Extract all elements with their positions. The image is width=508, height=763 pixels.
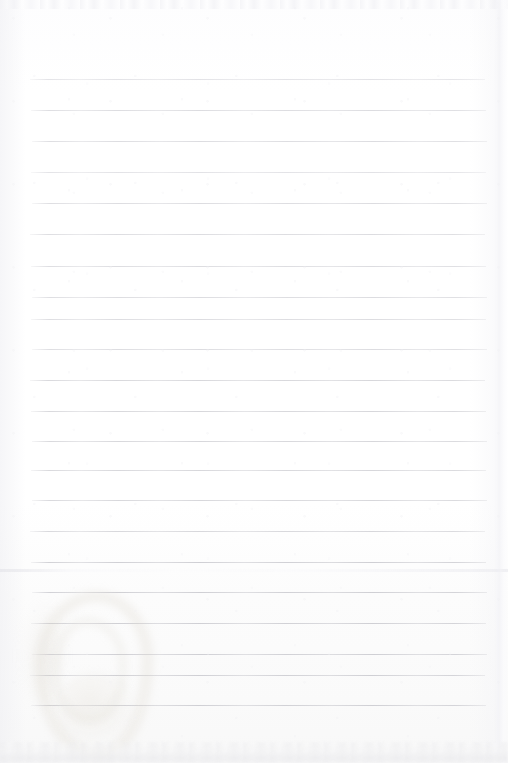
ruled-line: [31, 266, 486, 267]
ruled-line: [32, 297, 487, 298]
ruled-line: [31, 470, 486, 471]
ruled-line: [32, 349, 487, 350]
horizontal-fold-crease: [0, 569, 508, 572]
ruled-line: [30, 79, 485, 80]
ruled-line: [32, 500, 487, 501]
ruled-line: [31, 411, 486, 412]
ruled-line: [31, 562, 486, 563]
scanned-page: [0, 0, 508, 763]
top-scan-noise-band: [0, 0, 508, 9]
ruled-line: [32, 203, 487, 204]
ruled-line: [32, 441, 487, 442]
bottom-edge-smudge: [0, 742, 508, 763]
ruled-line: [30, 380, 485, 381]
ruled-line: [31, 110, 486, 111]
ruled-line: [30, 234, 485, 235]
ruled-line: [31, 172, 486, 173]
ruled-line: [31, 319, 486, 320]
ruled-line: [30, 531, 485, 532]
ruled-line: [32, 141, 487, 142]
right-page-seam: [497, 0, 502, 763]
